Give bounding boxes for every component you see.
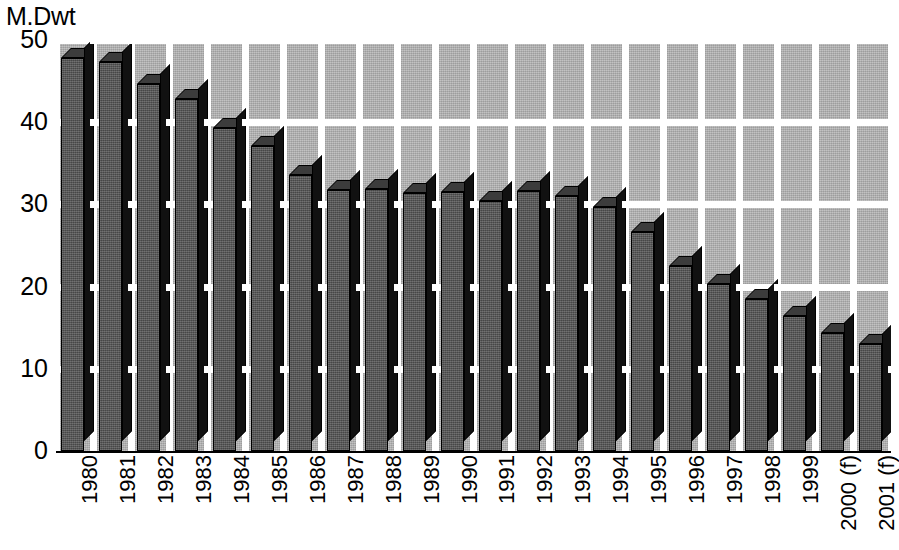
bar-side-face xyxy=(198,79,208,441)
bar-front-face xyxy=(137,84,160,451)
bar-side-face xyxy=(388,169,398,441)
gridline-crossing-mark xyxy=(432,201,439,208)
bar-side-face xyxy=(540,171,550,441)
gridline-crossing-mark xyxy=(660,40,667,44)
gridline-crossing-mark xyxy=(546,284,553,291)
bar-side-face xyxy=(426,173,436,441)
x-tick-year: 1983 xyxy=(191,455,216,504)
gridline-crossing-mark xyxy=(242,366,249,373)
gridline-crossing-mark xyxy=(432,40,439,44)
x-tick-label: 1986 xyxy=(307,455,329,504)
bar xyxy=(403,183,436,451)
x-tick-label: 1997 xyxy=(724,455,746,504)
gridline-crossing-mark xyxy=(812,366,819,373)
x-tick-label: 1988 xyxy=(383,455,405,504)
bar xyxy=(479,191,512,451)
gridline-crossing-mark xyxy=(698,119,705,126)
gridline-crossing-mark xyxy=(166,201,173,208)
bar-front-face xyxy=(593,207,616,451)
gridline-crossing-mark xyxy=(850,119,857,126)
gridline-crossing-mark xyxy=(850,366,857,373)
bar xyxy=(821,323,854,451)
x-tick-label: 1982 xyxy=(155,455,177,504)
gridline-crossing-mark xyxy=(90,40,97,44)
bar-front-face xyxy=(745,299,768,451)
gridline-crossing-mark xyxy=(660,366,667,373)
gridline-crossing-mark xyxy=(470,40,477,44)
gridline-crossing-mark xyxy=(280,366,287,373)
gridline-crossing-mark xyxy=(812,284,819,291)
gridline-crossing-mark xyxy=(128,40,135,44)
x-tick-year: 1995 xyxy=(646,455,671,504)
bar xyxy=(631,222,664,451)
x-tick-year: 1994 xyxy=(608,455,633,504)
gridline-crossing-mark xyxy=(850,201,857,208)
x-tick-label: 1987 xyxy=(345,455,367,504)
y-tick-label: 30 xyxy=(0,191,48,216)
bar xyxy=(555,186,588,451)
gridline-crossing-mark xyxy=(584,201,591,208)
gridline-crossing-mark xyxy=(90,119,97,126)
gridline-crossing-mark xyxy=(774,366,781,373)
x-tick-year: 1985 xyxy=(267,455,292,504)
gridline-crossing-mark xyxy=(394,119,401,126)
gridline-crossing-mark xyxy=(242,40,249,44)
bar-side-face xyxy=(844,313,854,441)
gridline-crossing-mark xyxy=(128,119,135,126)
gridline-crossing-mark xyxy=(166,40,173,44)
x-tick-year: 1988 xyxy=(381,455,406,504)
gridline-crossing-mark xyxy=(888,201,892,208)
gridline-crossing-mark xyxy=(356,284,363,291)
bar xyxy=(137,74,170,451)
gridline-crossing-mark xyxy=(166,119,173,126)
gridline-crossing-mark xyxy=(736,40,743,44)
bar-front-face xyxy=(783,316,806,451)
bar-front-face xyxy=(213,128,236,451)
x-tick-label: 1983 xyxy=(193,455,215,504)
gridline-crossing-mark xyxy=(850,40,857,44)
gridline-crossing-mark xyxy=(56,284,60,291)
gridline-crossing-mark xyxy=(242,119,249,126)
bar-front-face xyxy=(365,189,388,451)
gridline-crossing-mark xyxy=(622,284,629,291)
x-tick-year: 2001 xyxy=(874,482,899,531)
y-tick-label: 20 xyxy=(0,274,48,299)
gridline-crossing-mark xyxy=(318,284,325,291)
x-tick-label: 1990 xyxy=(459,455,481,504)
bar xyxy=(517,181,550,451)
bar-side-face xyxy=(236,108,246,441)
bar-front-face xyxy=(669,266,692,451)
gridline-crossing-mark xyxy=(622,40,629,44)
gridline-crossing-mark xyxy=(204,201,211,208)
gridline-crossing-mark xyxy=(812,40,819,44)
gridline-crossing-mark xyxy=(888,40,892,44)
gridline-crossing-mark xyxy=(546,119,553,126)
gridline-crossing-mark xyxy=(736,284,743,291)
gridline-crossing-mark xyxy=(546,40,553,44)
x-tick-label: 1989 xyxy=(421,455,443,504)
bar-front-face xyxy=(517,191,540,451)
bar-side-face xyxy=(122,42,132,441)
bar xyxy=(213,118,246,451)
bar-side-face xyxy=(616,187,626,441)
gridline-crossing-mark xyxy=(394,284,401,291)
y-tick-label: 50 xyxy=(0,27,48,52)
gridline-crossing-mark xyxy=(812,119,819,126)
bar-front-face xyxy=(631,232,654,451)
gridline-crossing-mark xyxy=(128,201,135,208)
gridline-crossing-mark xyxy=(470,366,477,373)
bar-side-face xyxy=(502,181,512,441)
gridline-crossing-mark xyxy=(888,284,892,291)
bar-front-face xyxy=(289,175,312,451)
gridline-crossing-mark xyxy=(888,119,892,126)
gridline-crossing-mark xyxy=(280,119,287,126)
gridline-crossing-mark xyxy=(508,284,515,291)
bar xyxy=(707,274,740,451)
gridline-crossing-mark xyxy=(204,119,211,126)
gridline-crossing-mark xyxy=(56,40,60,44)
gridline-crossing-mark xyxy=(242,201,249,208)
gridline-crossing-mark xyxy=(470,119,477,126)
gridline-crossing-mark xyxy=(204,284,211,291)
gridline-crossing-mark xyxy=(280,284,287,291)
bar xyxy=(441,182,474,451)
